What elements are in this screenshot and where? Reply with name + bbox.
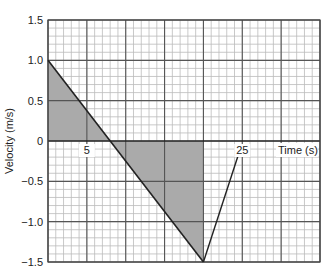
- x-tick-label: 25: [236, 144, 248, 156]
- x-axis-title-group: Time (s): [276, 143, 318, 157]
- y-tick-label: 0: [37, 135, 43, 147]
- y-tick-label: 1.5: [28, 14, 43, 26]
- y-axis-title: Velocity (m/s): [3, 108, 15, 174]
- y-tick-label: 0.5: [28, 95, 43, 107]
- y-tick-labels: 1.51.00.50−0.5−1.0−1.5: [21, 14, 43, 268]
- y-tick-label: −1.0: [21, 216, 43, 228]
- y-tick-label: −0.5: [21, 175, 43, 187]
- x-tick-label: 5: [84, 144, 90, 156]
- velocity-time-chart: 1.51.00.50−0.5−1.0−1.5 525 Time (s) Velo…: [0, 0, 331, 273]
- y-tick-label: 1.0: [28, 54, 43, 66]
- x-axis-title: Time (s): [278, 144, 318, 156]
- y-tick-label: −1.5: [21, 256, 43, 268]
